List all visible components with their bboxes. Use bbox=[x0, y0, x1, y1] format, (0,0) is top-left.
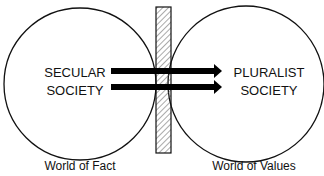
hatched-barrier bbox=[156, 7, 171, 153]
left-circle-label: SECULAR SOCIETY bbox=[20, 64, 130, 100]
diagram: SECULAR SOCIETY PLURALIST SOCIETY World … bbox=[0, 0, 324, 176]
right-caption: World of Values bbox=[184, 157, 324, 175]
left-caption: World of Fact bbox=[10, 157, 150, 175]
left-label-line2: SOCIETY bbox=[20, 82, 130, 100]
right-label-line2: SOCIETY bbox=[214, 82, 324, 100]
right-circle-label: PLURALIST SOCIETY bbox=[214, 64, 324, 100]
right-label-line1: PLURALIST bbox=[214, 64, 324, 82]
left-label-line1: SECULAR bbox=[20, 64, 130, 82]
